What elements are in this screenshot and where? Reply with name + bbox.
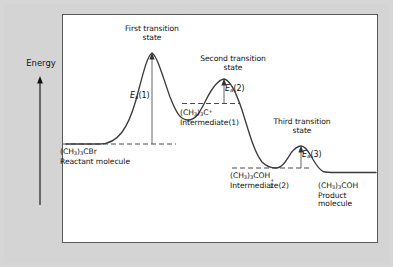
ea1-index: (1) (138, 91, 149, 100)
ea2-index: (2) (233, 84, 244, 93)
product-caption-line2: molecule (318, 200, 358, 209)
ea1-arrow (149, 53, 154, 145)
ea1-label: Ea(1) (130, 91, 150, 102)
energy-axis-label: Energy (13, 58, 69, 68)
second-transition-state-line2: state (183, 64, 283, 73)
ea2-label: Ea(2) (225, 84, 245, 95)
energy-profile-figure: Energy First transition state Ea(1) Seco… (0, 0, 393, 267)
intermediate2-caption: Intermediate(2) (230, 182, 289, 191)
ea3-index: (3) (310, 150, 321, 159)
intermediate1-formula: (CH3)3C+ (180, 107, 239, 119)
intermediate1-caption: Intermediate(1) (180, 119, 239, 128)
third-transition-state-line2: state (258, 127, 346, 136)
intermediate1-label: (CH3)3C+ Intermediate(1) (180, 107, 239, 127)
product-label: (CH3)3COH Product molecule (318, 182, 358, 209)
intermediate2-label: (CH3)3COH2+ Intermediate(2) (230, 172, 289, 190)
reactant-caption: Reactant molecule (60, 158, 130, 167)
reactant-label: (CH3)3CBr Reactant molecule (60, 148, 130, 166)
energy-axis-arrow (37, 76, 43, 205)
first-transition-state-label: First transition state (107, 25, 197, 42)
first-transition-state-line2: state (107, 34, 197, 43)
ea3-label: Ea(3) (302, 150, 322, 161)
third-transition-state-label: Third transition state (258, 118, 346, 135)
second-transition-state-label: Second transition state (183, 55, 283, 72)
